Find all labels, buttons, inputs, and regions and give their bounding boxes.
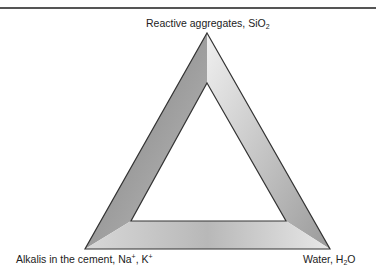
label-subscript: 2: [266, 23, 270, 30]
label-text: Water, H: [303, 253, 343, 265]
label-text: , K: [136, 253, 149, 265]
vertex-label-water: Water, H2O: [303, 253, 356, 266]
label-text: Alkalis in the cement, Na: [16, 253, 132, 265]
label-superscript: +: [149, 253, 153, 260]
vertex-label-alkalis: Alkalis in the cement, Na+, K+: [16, 253, 153, 265]
label-text: O: [347, 253, 355, 265]
label-text: Reactive aggregates, SiO: [146, 17, 266, 29]
triangle-diagram: [0, 0, 376, 275]
vertex-label-reactive-aggregates: Reactive aggregates, SiO2: [146, 17, 270, 30]
